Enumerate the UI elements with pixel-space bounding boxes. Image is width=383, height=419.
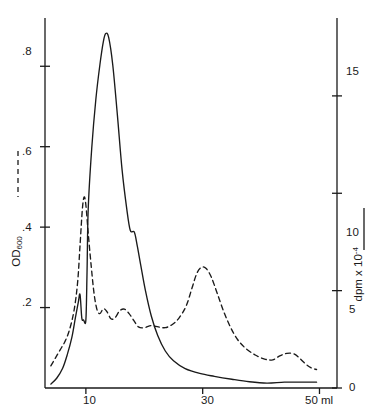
x-tick-label-10: 10 [83,395,96,407]
right-axis-title-main: dpm x 10 [352,254,364,301]
y-left-tick-label-8: .8 [22,46,32,58]
left-axis-title: OD600 [11,227,24,277]
left-axis-dashed-legend-marker [14,150,22,198]
series-dpm-line [51,33,317,384]
series-od600-line [51,197,317,370]
right-axis-solid-legend-marker [360,207,368,251]
chromatography-chart: .8 .6 .4 .2 15 10 5 0 10 30 50 ml OD600 … [0,0,383,419]
plot-area [0,0,383,419]
y-right-tick-label-0: 0 [349,382,355,394]
left-axis-title-main: OD [10,250,22,267]
left-axis-title-subscript: 600 [15,236,24,249]
x-tick-label-30: 30 [201,395,214,407]
y-right-tick-label-15: 15 [346,66,359,78]
x-tick-label-50-ml: 50 ml [305,395,333,407]
right-axis-title-superscript: -4 [351,247,360,254]
y-left-tick-label-6: .6 [22,146,32,158]
y-left-tick-label-2: .2 [22,297,32,309]
